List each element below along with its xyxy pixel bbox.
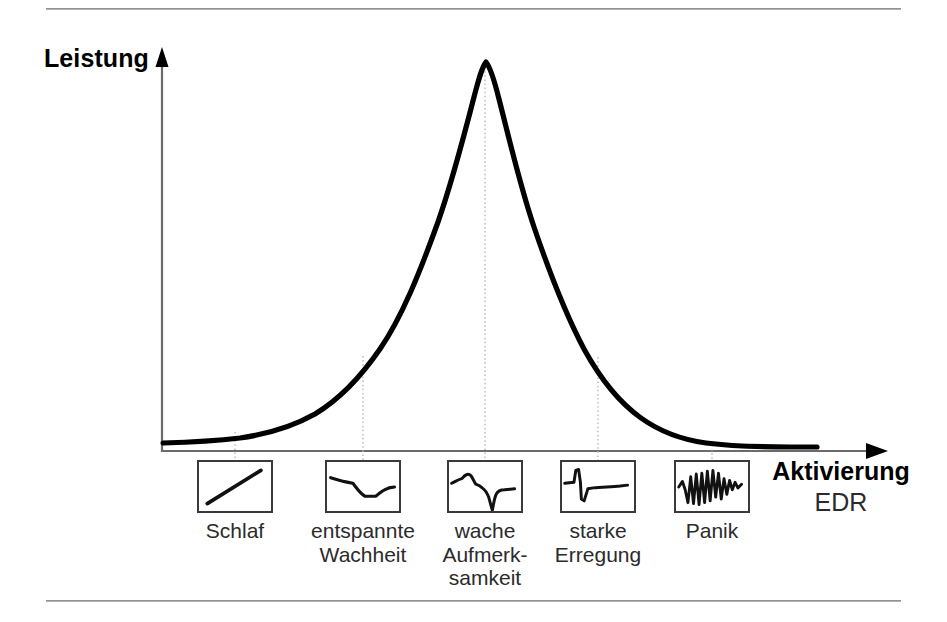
figure-canvas: Leistung Aktivierung EDR Schlaf entspann… — [0, 0, 947, 622]
state-label: Panik — [652, 519, 772, 543]
x-axis-subtitle: EDR — [766, 489, 916, 516]
edr-trace-rapid-oscillation-icon — [674, 460, 750, 513]
edr-trace-single-spike-icon — [560, 460, 636, 513]
state-label: Schlaf — [175, 519, 295, 543]
edr-trace-rising-line-icon — [197, 460, 273, 513]
state-panik: Panik — [652, 460, 772, 543]
edr-trace-descending-plateau-icon — [325, 460, 401, 513]
y-axis — [156, 47, 169, 452]
state-connector-lines — [235, 63, 712, 462]
state-schlaf: Schlaf — [175, 460, 295, 543]
y-axis-title: Leistung — [44, 45, 149, 72]
state-label: starke Erregung — [538, 519, 658, 566]
state-entspannte-wachheit: entspannte Wachheit — [303, 460, 423, 566]
state-starke-erregung: starke Erregung — [538, 460, 658, 566]
state-label: entspannte Wachheit — [303, 519, 423, 566]
edr-trace-wavy-with-dip-icon — [447, 460, 523, 513]
x-axis-title: Aktivierung — [766, 458, 916, 485]
performance-curve — [163, 62, 817, 447]
state-wache-aufmerksamkeit: wache Aufmerk- samkeit — [425, 460, 545, 590]
state-label: wache Aufmerk- samkeit — [425, 519, 545, 590]
